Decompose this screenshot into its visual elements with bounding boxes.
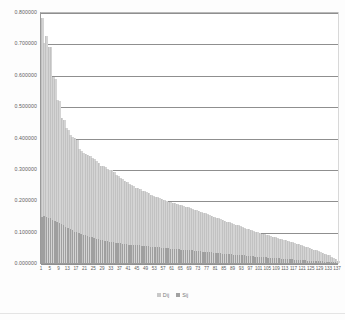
x-axis-tick-label: 5 <box>49 266 51 271</box>
y-axis-tick-label: 0.800000 <box>15 9 37 15</box>
legend-square-marker-icon <box>157 293 161 297</box>
x-axis-tick-label: 101 <box>255 266 262 271</box>
y-axis-tick-label: 0.100000 <box>15 229 37 235</box>
legend-item[interactable]: Dij <box>157 292 169 298</box>
page-bottom-edge <box>0 313 345 314</box>
bar-series-group <box>41 13 338 263</box>
y-axis-tick-label: 0.400000 <box>15 135 37 141</box>
x-axis-tick-label: 129 <box>316 266 323 271</box>
x-axis-tick-label: 137 <box>333 266 340 271</box>
plot-right-edge <box>338 12 339 264</box>
x-axis-tick-label: 49 <box>143 266 148 271</box>
x-axis-tick-label: 121 <box>298 266 305 271</box>
x-axis-tick-label: 77 <box>204 266 209 271</box>
x-axis-tick-label: 37 <box>117 266 122 271</box>
y-axis-tick-label: 0.000000 <box>15 260 37 266</box>
legend-label: Dij <box>163 292 169 298</box>
x-axis-tick-label: 61 <box>169 266 174 271</box>
x-axis-tick-label: 25 <box>91 266 96 271</box>
x-axis-tick-label: 13 <box>65 266 70 271</box>
x-axis-tick-label: 69 <box>187 266 192 271</box>
x-axis-labels: 1591317212529333741454953576165697377818… <box>40 266 338 276</box>
y-axis-labels: 0.8000000.7000000.6000000.5000000.400000… <box>0 0 40 275</box>
x-axis-tick-label: 1 <box>40 266 42 271</box>
x-axis-tick-label: 109 <box>272 266 279 271</box>
x-axis-tick-label: 93 <box>239 266 244 271</box>
x-axis-tick-label: 53 <box>152 266 157 271</box>
x-axis-line <box>40 263 338 264</box>
x-axis-tick-label: 85 <box>221 266 226 271</box>
x-axis-tick-label: 117 <box>290 266 297 271</box>
x-axis-tick-label: 73 <box>195 266 200 271</box>
y-axis-tick-label: 0.700000 <box>15 40 37 46</box>
x-axis-tick-label: 41 <box>126 266 131 271</box>
x-axis-tick-label: 105 <box>264 266 271 271</box>
x-axis-tick-label: 9 <box>57 266 59 271</box>
x-axis-tick-label: 133 <box>325 266 332 271</box>
legend-label: Sij <box>182 292 188 298</box>
x-axis-tick-label: 65 <box>178 266 183 271</box>
legend-square-marker-icon <box>176 293 180 297</box>
y-axis-tick-label: 0.600000 <box>15 72 37 78</box>
gridline <box>41 264 338 265</box>
x-axis-tick-label: 21 <box>82 266 87 271</box>
chart-legend: DijSij <box>0 292 345 298</box>
chart-page: 0.8000000.7000000.6000000.5000000.400000… <box>0 0 345 320</box>
y-axis-tick-label: 0.500000 <box>15 103 37 109</box>
x-axis-tick-label: 57 <box>160 266 165 271</box>
x-axis-tick-label: 89 <box>230 266 235 271</box>
x-axis-tick-label: 125 <box>307 266 314 271</box>
x-axis-tick-label: 33 <box>108 266 113 271</box>
x-axis-tick-label: 45 <box>134 266 139 271</box>
y-axis-tick-label: 0.300000 <box>15 166 37 172</box>
y-axis-tick-label: 0.200000 <box>15 197 37 203</box>
x-axis-tick-label: 29 <box>100 266 105 271</box>
x-axis-tick-label: 17 <box>73 266 78 271</box>
chart-title-strip <box>0 0 345 9</box>
x-axis-tick-label: 113 <box>281 266 288 271</box>
legend-item[interactable]: Sij <box>176 292 188 298</box>
plot-area <box>40 12 338 263</box>
x-axis-tick-label: 81 <box>213 266 218 271</box>
x-axis-tick-label: 97 <box>247 266 252 271</box>
